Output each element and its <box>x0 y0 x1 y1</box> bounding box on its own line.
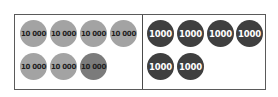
counter-1000: 1000 <box>177 20 204 47</box>
counter-1000: 1000 <box>147 20 174 47</box>
thousands-panel: 1000 1000 1000 1000 1000 1000 <box>143 15 265 89</box>
counter-1000: 1000 <box>147 53 174 80</box>
counter-10000-highlighted: 10 000 <box>80 53 107 80</box>
counters-frame: 10 000 10 000 10 000 10 000 10 000 10 00… <box>14 14 266 90</box>
counter-1000: 1000 <box>207 20 234 47</box>
counter-10000: 10 000 <box>50 20 77 47</box>
counter-10000: 10 000 <box>20 20 47 47</box>
counter-1000: 1000 <box>236 20 263 47</box>
counter-10000: 10 000 <box>50 53 77 80</box>
ten-thousands-panel: 10 000 10 000 10 000 10 000 10 000 10 00… <box>15 15 143 89</box>
counter-10000: 10 000 <box>20 53 47 80</box>
counter-10000: 10 000 <box>110 20 137 47</box>
counter-1000: 1000 <box>177 53 204 80</box>
counter-10000: 10 000 <box>80 20 107 47</box>
